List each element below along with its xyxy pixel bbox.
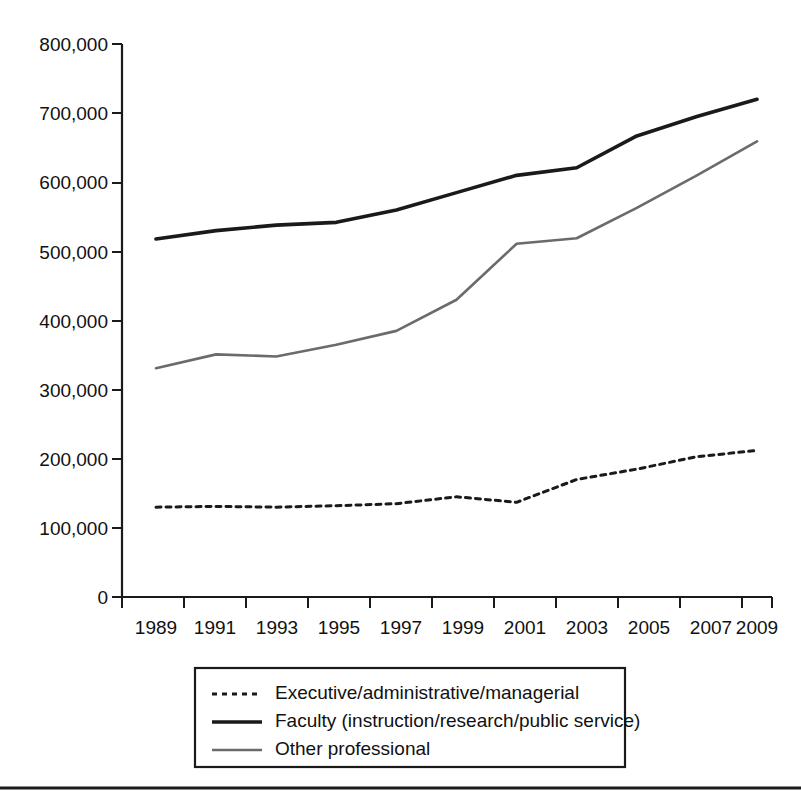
x-tick-label: 1999 <box>442 617 484 638</box>
legend: Executive/administrative/managerial Facu… <box>195 668 640 767</box>
x-axis-spine <box>122 597 772 608</box>
x-tick-label: 2005 <box>628 617 670 638</box>
x-tick-label: 1997 <box>380 617 422 638</box>
y-axis-spine <box>112 44 122 597</box>
x-axis-tick-labels: 1989 1991 1993 1995 1997 1999 2001 2003 … <box>135 617 778 638</box>
x-tick-label: 2007 <box>690 617 732 638</box>
y-tick-label: 200,000 <box>39 449 108 470</box>
plot-series-group <box>156 99 757 507</box>
y-tick-label: 400,000 <box>39 311 108 332</box>
legend-label: Faculty (instruction/research/public ser… <box>275 710 640 731</box>
line-chart: 800,000 700,000 600,000 500,000 400,000 … <box>0 0 801 808</box>
chart-figure: 800,000 700,000 600,000 500,000 400,000 … <box>0 0 801 808</box>
series-line-executive <box>156 450 757 507</box>
legend-label: Executive/administrative/managerial <box>275 682 579 703</box>
y-tick-label: 600,000 <box>39 172 108 193</box>
y-tick-label: 100,000 <box>39 518 108 539</box>
y-tick-label: 500,000 <box>39 242 108 263</box>
x-tick-label: 1989 <box>135 617 177 638</box>
x-tick-label: 2003 <box>566 617 608 638</box>
legend-item-faculty[interactable]: Faculty (instruction/research/public ser… <box>212 710 640 731</box>
series-line-other-professional <box>156 141 757 368</box>
x-tick-label: 1993 <box>256 617 298 638</box>
x-tick-label: 1991 <box>194 617 236 638</box>
y-axis-tick-labels: 800,000 700,000 600,000 500,000 400,000 … <box>39 34 108 608</box>
x-tick-label: 2001 <box>504 617 546 638</box>
x-tick-label: 2009 <box>736 617 778 638</box>
x-tick-label: 1995 <box>318 617 360 638</box>
y-tick-label: 0 <box>97 587 108 608</box>
series-line-faculty <box>156 99 757 239</box>
y-tick-label: 800,000 <box>39 34 108 55</box>
y-tick-label: 300,000 <box>39 380 108 401</box>
y-tick-label: 700,000 <box>39 103 108 124</box>
legend-label: Other professional <box>275 738 430 759</box>
